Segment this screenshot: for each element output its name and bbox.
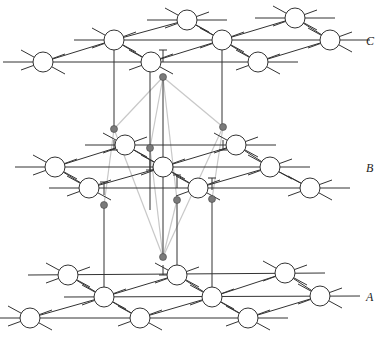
crystal-layer-diagram: C B A xyxy=(0,0,388,340)
lattice-drawing xyxy=(0,0,388,340)
layer-label-c: C xyxy=(366,34,374,49)
layer-label-b: B xyxy=(366,161,373,176)
layer-label-a: A xyxy=(366,290,373,305)
